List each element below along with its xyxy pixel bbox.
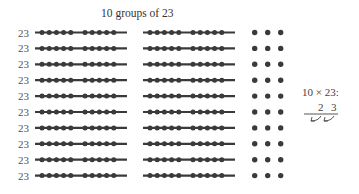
ten-rod (35, 94, 127, 99)
unit-dot (265, 157, 270, 162)
ten-rod (35, 173, 127, 178)
ten-rod (35, 157, 127, 162)
group-row: 23 (18, 90, 283, 102)
unit-dot (252, 141, 257, 146)
unit-dot (252, 46, 257, 51)
ten-rod (35, 30, 127, 35)
unit-dot (265, 93, 270, 98)
unit-dot (278, 157, 283, 162)
unit-dot (278, 78, 283, 83)
group-row: 23 (18, 58, 283, 70)
group-row: 23 (18, 154, 283, 166)
ten-rod (35, 62, 127, 67)
row-label: 23 (18, 58, 30, 70)
unit-dot (252, 78, 257, 83)
unit-dot (278, 109, 283, 114)
row-label: 23 (18, 74, 30, 86)
ten-rod (143, 141, 235, 146)
unit-dot (252, 93, 257, 98)
unit-dot (265, 62, 270, 67)
group-row: 23 (18, 74, 283, 86)
ten-rod (35, 78, 127, 83)
row-label: 23 (18, 42, 30, 54)
ten-rod (143, 62, 235, 67)
ten-rod (143, 173, 235, 178)
unit-dot (278, 30, 283, 35)
ten-rod (143, 157, 235, 162)
row-label: 23 (18, 170, 30, 182)
row-label: 23 (18, 154, 30, 166)
unit-dot (265, 173, 270, 178)
group-row: 23 (18, 138, 283, 150)
ten-rod (143, 78, 235, 83)
row-label: 23 (18, 122, 30, 134)
group-row: 23 (18, 170, 283, 182)
unit-dot (265, 141, 270, 146)
unit-dot (265, 30, 270, 35)
unit-dot (278, 62, 283, 67)
row-label: 23 (18, 138, 30, 150)
ten-rod (143, 30, 235, 35)
unit-dot (278, 93, 283, 98)
row-label: 23 (18, 90, 30, 102)
unit-dot (278, 141, 283, 146)
unit-dot (252, 62, 257, 67)
unit-dot (252, 125, 257, 130)
ten-rod (143, 110, 235, 115)
ten-rod (35, 125, 127, 130)
unit-dot (252, 157, 257, 162)
unit-dot (252, 30, 257, 35)
ten-rod (143, 46, 235, 51)
annotation-expression: 10 × 23: (302, 86, 339, 98)
unit-dot (278, 125, 283, 130)
unit-dot (265, 46, 270, 51)
unit-dot (252, 109, 257, 114)
unit-dot (265, 78, 270, 83)
row-label: 23 (18, 27, 30, 39)
unit-dot (265, 125, 270, 130)
group-row: 23 (18, 27, 283, 39)
group-row: 23 (18, 106, 283, 118)
ten-rod (35, 110, 127, 115)
ten-rod (35, 46, 127, 51)
unit-dot (278, 46, 283, 51)
ten-rod (35, 141, 127, 146)
ten-rod (143, 125, 235, 130)
unit-dot (278, 173, 283, 178)
ten-rod (143, 94, 235, 99)
unit-dot (252, 173, 257, 178)
row-label: 23 (18, 106, 30, 118)
unit-dot (265, 109, 270, 114)
group-row: 23 (18, 122, 283, 134)
group-row: 23 (18, 42, 283, 54)
